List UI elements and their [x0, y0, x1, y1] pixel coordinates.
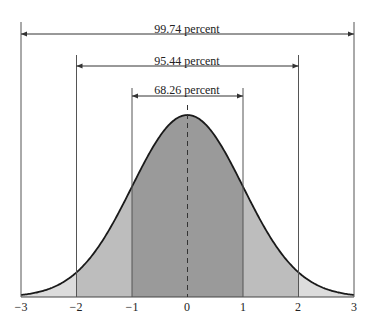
- tick-neg1: −1: [126, 300, 139, 315]
- tick-neg2: −2: [70, 300, 83, 315]
- label-68-26: 68.26 percent: [154, 83, 219, 98]
- tick-0: 0: [184, 300, 190, 315]
- normal-distribution-chart: 99.74 percent 95.44 percent 68.26 percen…: [0, 0, 375, 328]
- chart-canvas: [0, 0, 375, 328]
- tick-3: 3: [351, 300, 357, 315]
- label-95-44: 95.44 percent: [154, 54, 219, 69]
- label-99-74: 99.74 percent: [154, 22, 219, 37]
- tick-1: 1: [240, 300, 246, 315]
- tick-neg3: −3: [15, 300, 28, 315]
- tick-2: 2: [295, 300, 301, 315]
